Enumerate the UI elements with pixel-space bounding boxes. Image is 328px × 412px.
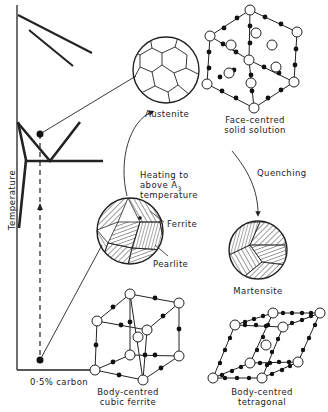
bcc-lattice: [90, 289, 184, 385]
fcc-lattice: [202, 5, 302, 113]
quenching-arrow: [232, 151, 258, 214]
ferrite-label: Ferrite: [167, 219, 197, 229]
connector-to-austenite: [40, 76, 136, 134]
up-arrow-icon: [37, 203, 43, 210]
heating-label-line1: Heating to: [140, 170, 189, 180]
bcc-label-line2: cubic ferrite: [88, 397, 168, 407]
fcc-label-line1: Face-centred: [217, 115, 293, 125]
austenite-micrograph: [131, 37, 199, 104]
pearlite-micrograph: [97, 198, 168, 265]
bct-label-line2: tetragonal: [222, 397, 302, 407]
quenching-label: Quenching: [257, 168, 307, 178]
a3-acm-lines: [18, 122, 80, 161]
diagram-canvas: [0, 0, 328, 412]
martensite-label: Martensite: [228, 286, 288, 296]
carbon-content-label: 0·5% carbon: [30, 377, 88, 387]
phase-diagram: [17, 5, 136, 370]
ferrite-boundary: [18, 122, 26, 228]
martensite-micrograph: [229, 221, 288, 282]
fcc-label-line2: solid solution: [217, 125, 293, 135]
austenite-label: Austenite: [138, 109, 196, 119]
heating-label-line3: temperature: [140, 190, 198, 200]
connector-to-pearlite: [40, 245, 102, 360]
pearlite-label: Pearlite: [153, 259, 188, 269]
y-axis-label: Temperature: [7, 170, 17, 230]
bcc-label-line1: Body-centred: [88, 387, 168, 397]
upper-line-2: [29, 30, 73, 66]
bct-label-line1: Body-centred: [222, 387, 302, 397]
upper-line-1: [18, 15, 92, 53]
bct-lattice: [208, 308, 325, 383]
